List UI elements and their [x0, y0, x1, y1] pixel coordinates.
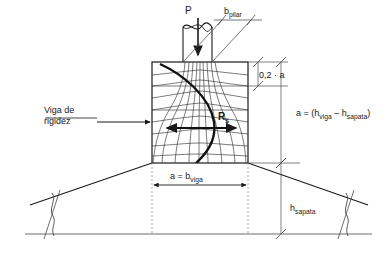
figure-root: P bpilar 0,2 · a Viga de rigidez Rs a = …	[0, 0, 392, 261]
label-h-sapata: hsapata	[290, 203, 315, 213]
stress-trajectory-field	[152, 62, 248, 163]
label-a-height-p1: a = (h	[296, 108, 319, 118]
label-load-P: P	[185, 5, 192, 16]
label-a-height-p3: )	[367, 108, 370, 118]
label-h-sapata-sub: sapata	[295, 208, 315, 215]
diagram-canvas	[0, 0, 392, 261]
band-rules	[152, 86, 248, 110]
label-a-height-sub2: sapata	[347, 113, 367, 120]
label-b-pilar: bpilar	[224, 6, 242, 16]
label-viga-line2: rigidez	[44, 116, 74, 127]
label-Rs-sub: s	[225, 117, 229, 124]
label-a-height-p2: – h	[332, 108, 347, 118]
label-resultant-Rs: Rs	[218, 111, 229, 122]
dimension-h-sapata	[276, 158, 286, 239]
label-a-height-sub1: viga	[319, 113, 331, 120]
label-a-width-base: a = b	[170, 171, 190, 181]
label-viga-line1: Viga de	[44, 105, 74, 116]
label-top-band-02a: 0,2 · a	[259, 70, 285, 80]
dimension-b-pilar	[183, 15, 262, 62]
label-a-width-relation: a = bviga	[170, 171, 203, 181]
label-b-pilar-sub: pilar	[229, 11, 242, 18]
label-a-height-relation: a = (hviga – hsapata)	[296, 108, 370, 118]
compression-trajectories	[153, 62, 246, 163]
label-a-width-sub: viga	[190, 176, 202, 183]
label-viga-de-rigidez: Viga de rigidez	[44, 105, 74, 126]
